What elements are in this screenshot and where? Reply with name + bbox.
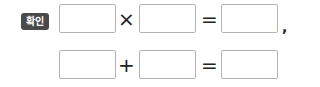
equals-sign: = <box>201 9 217 29</box>
comma: , <box>282 19 287 35</box>
multiply-sign: × <box>118 9 134 29</box>
answer-box-row1-2[interactable] <box>139 4 196 33</box>
answer-box-row1-1[interactable] <box>59 4 116 33</box>
confirm-badge: 확인 <box>21 13 49 30</box>
equals-sign: = <box>201 55 217 75</box>
plus-sign: + <box>118 55 134 75</box>
answer-box-row2-2[interactable] <box>139 50 196 79</box>
answer-box-row2-3[interactable] <box>221 50 278 79</box>
answer-box-row2-1[interactable] <box>59 50 116 79</box>
answer-box-row1-3[interactable] <box>221 4 278 33</box>
